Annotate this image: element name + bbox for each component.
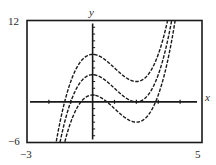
curves [56,21,175,142]
y-axis-label: y [88,6,94,18]
curve-c7 [56,21,167,141]
plot-frame [27,21,202,143]
x-max-label: 5 [195,148,201,160]
graph: 12 −6 −3 5 x y [0,0,216,165]
y-min-label: −6 [8,135,20,147]
x-axis-label: x [204,91,210,103]
curve-c4 [60,21,172,142]
x-min-label: −3 [20,148,32,160]
y-max-label: 12 [8,15,19,27]
